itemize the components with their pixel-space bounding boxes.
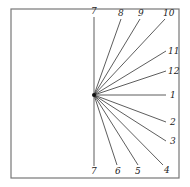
hour-line (94, 95, 138, 165)
hour-line (94, 19, 165, 95)
hour-labels: 7891011121234567 (91, 6, 180, 176)
sundial-diagram: 7891011121234567 (0, 0, 190, 187)
hour-label: 5 (135, 166, 141, 176)
hour-label: 3 (170, 136, 176, 146)
hour-label: 1 (170, 90, 176, 100)
hour-label: 8 (118, 8, 124, 18)
hour-lines (92, 17, 166, 166)
hour-label: 7 (91, 6, 97, 16)
hour-label: 10 (163, 8, 175, 18)
origin-point (92, 93, 96, 97)
hour-label: 2 (169, 117, 176, 127)
hour-label: 4 (163, 165, 170, 175)
hour-label: 12 (168, 66, 180, 76)
hour-label: 6 (115, 166, 121, 176)
hour-label: 11 (168, 46, 179, 56)
hour-label: 7 (91, 166, 97, 176)
hour-label: 9 (138, 8, 144, 18)
hour-line (94, 95, 117, 165)
hour-line (94, 95, 163, 165)
hour-line (94, 51, 166, 95)
